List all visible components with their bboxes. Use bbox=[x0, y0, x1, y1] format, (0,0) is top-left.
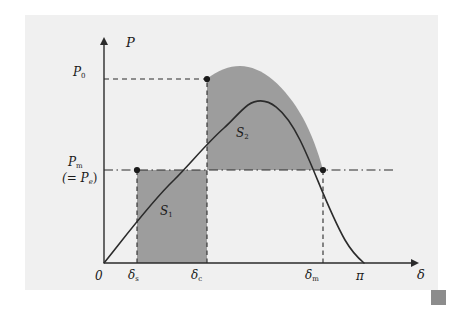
pe-open: (= P bbox=[62, 171, 89, 185]
origin-tick-label: 0 bbox=[95, 270, 103, 282]
pe-equivalence-label: (= Pe) bbox=[62, 172, 97, 186]
region-s2-shade bbox=[207, 66, 323, 170]
color-swatch bbox=[431, 290, 446, 305]
s2-subscript: 2 bbox=[244, 133, 248, 141]
s1-base: S bbox=[160, 204, 168, 218]
pe-close: ) bbox=[93, 171, 98, 185]
delta-s-tick-label: δs bbox=[128, 269, 139, 283]
delta-c-tick-label: δc bbox=[191, 269, 202, 283]
delta-m-point bbox=[320, 167, 326, 173]
delta-m-tick-label: δm bbox=[305, 269, 319, 283]
s2-base: S bbox=[236, 126, 244, 140]
pm-subscript: m bbox=[76, 162, 83, 170]
delta-s-subscript: s bbox=[135, 275, 139, 283]
delta-c-subscript: c bbox=[198, 275, 202, 283]
pm-tick-label: Pm bbox=[68, 156, 83, 170]
region-s1-label: S1 bbox=[160, 205, 173, 219]
y-axis-label: P bbox=[126, 36, 135, 49]
p0-base: P bbox=[73, 65, 81, 79]
p0-subscript: 0 bbox=[81, 72, 85, 80]
x-axis-label: δ bbox=[417, 268, 425, 281]
region-s2-label: S2 bbox=[236, 127, 249, 141]
delta-m-subscript: m bbox=[312, 275, 319, 283]
pm-base: P bbox=[68, 155, 76, 169]
delta-c-point bbox=[204, 76, 210, 82]
figure-root: P P0 Pm (= Pe) 0 δs δc δm π δ S1 S2 bbox=[0, 0, 464, 317]
pi-tick-label: π bbox=[356, 270, 364, 282]
s1-subscript: 1 bbox=[168, 211, 172, 219]
delta-s-point bbox=[134, 167, 140, 173]
p0-tick-label: P0 bbox=[73, 66, 86, 80]
